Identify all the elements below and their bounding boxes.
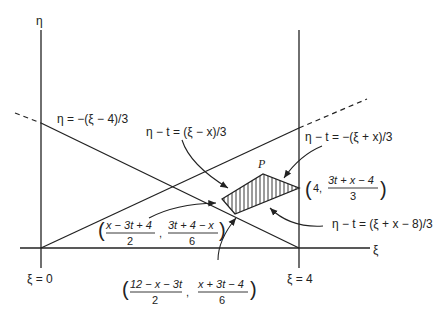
svg-text:): ) xyxy=(219,219,226,241)
pointer-lower-right xyxy=(270,208,323,226)
svg-text:(: ( xyxy=(98,219,105,241)
right-vertex-coords: ( 4, 3t + x − 4 3 ) xyxy=(305,174,387,202)
hatched-region xyxy=(224,170,296,220)
svg-text:x − 3t + 4: x − 3t + 4 xyxy=(105,219,152,231)
lower-right-edge-label: η − t = (ξ + x − 8)/3 xyxy=(332,217,433,231)
svg-text:(: ( xyxy=(122,278,129,300)
ascending-line-dashed xyxy=(299,99,367,128)
svg-text:,: , xyxy=(159,227,162,239)
characteristics-diagram: η ξ ξ = 0 ξ = 4 η = −(ξ − 4)/3 η − t = (… xyxy=(0,0,444,319)
svg-text:x + 3t − 4: x + 3t − 4 xyxy=(197,278,244,290)
svg-text:12 − x − 3t: 12 − x − 3t xyxy=(130,278,183,290)
pointer-upper-right xyxy=(284,146,322,178)
svg-text:,: , xyxy=(186,286,189,298)
svg-text:(: ( xyxy=(305,178,312,200)
svg-text:6: 6 xyxy=(219,294,225,306)
svg-text:): ) xyxy=(380,178,387,200)
xi-4-label: ξ = 4 xyxy=(287,272,313,286)
bottom-vertex-coords: ( 12 − x − 3t 2 , x + 3t − 4 6 ) xyxy=(122,278,257,306)
descending-line-label: η = −(ξ − 4)/3 xyxy=(57,112,128,126)
pointer-left-vertex xyxy=(149,203,216,218)
svg-text:3t + x − 4: 3t + x − 4 xyxy=(328,174,374,186)
point-p-label: P xyxy=(257,157,266,171)
svg-text:4,: 4, xyxy=(313,182,322,194)
svg-text:6: 6 xyxy=(189,235,195,247)
upper-right-edge-label: η − t = −(ξ + x)/3 xyxy=(305,130,393,144)
xi-label: ξ xyxy=(373,243,379,257)
left-vertex-coords: ( x − 3t + 4 2 , 3t + 4 − x 6 ) xyxy=(98,219,226,247)
svg-text:2: 2 xyxy=(152,294,158,306)
upper-left-edge-label: η − t = (ξ − x)/3 xyxy=(146,125,227,139)
xi-0-label: ξ = 0 xyxy=(27,272,53,286)
parallelogram-outline xyxy=(222,174,299,214)
svg-text:3t + 4 − x: 3t + 4 − x xyxy=(168,219,214,231)
descending-line-dashed xyxy=(15,113,41,123)
eta-label: η xyxy=(36,14,43,28)
svg-text:3: 3 xyxy=(350,190,356,202)
svg-text:2: 2 xyxy=(127,235,133,247)
svg-text:): ) xyxy=(250,278,257,300)
